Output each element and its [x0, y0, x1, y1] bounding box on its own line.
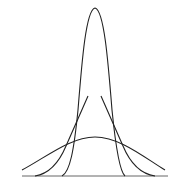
- medium-curve-right: [101, 96, 155, 176]
- wide-curve: [22, 137, 165, 170]
- medium-curve-left: [35, 96, 88, 176]
- narrow-curve: [62, 8, 125, 176]
- distribution-curves-figure: [0, 0, 174, 185]
- figure-caption: [2, 180, 174, 185]
